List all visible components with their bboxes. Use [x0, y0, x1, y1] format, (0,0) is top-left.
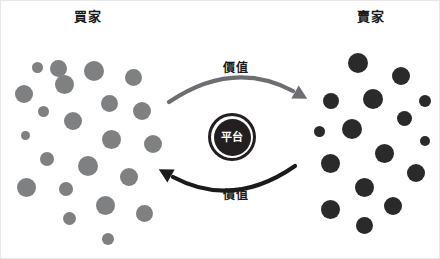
value-label-top: 價值: [191, 62, 281, 74]
diagram-canvas: 買家 賣家 價值 價值 平台: [0, 0, 440, 259]
arrow-head-right-icon: [291, 85, 311, 105]
value-flow-arrow-seller-to-buyer: [173, 166, 295, 191]
platform-node: 平台: [208, 113, 256, 161]
arrow-head-left-icon: [155, 163, 175, 183]
platform-label: 平台: [208, 113, 256, 161]
value-flow-arrow-buyer-to-seller: [169, 77, 293, 102]
value-label-bottom: 價值: [191, 189, 281, 201]
